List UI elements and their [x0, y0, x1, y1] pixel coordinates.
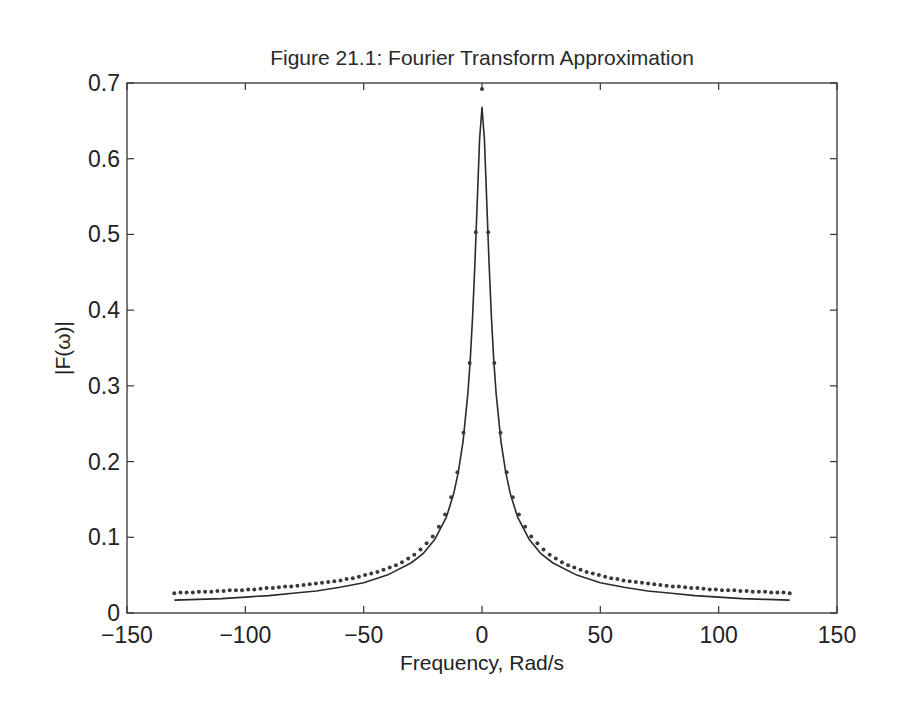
data-point: [406, 557, 410, 561]
data-point: [351, 576, 355, 580]
data-point: [222, 589, 226, 593]
data-point: [714, 588, 718, 592]
data-point: [265, 586, 269, 590]
data-point: [542, 547, 546, 551]
data-point: [474, 230, 478, 234]
plot-area: −150−100−50050100150 00.10.20.30.40.50.6…: [0, 0, 900, 709]
data-point: [769, 591, 773, 595]
data-point: [375, 570, 379, 574]
data-point: [554, 557, 558, 561]
y-axis-ticks: 00.10.20.30.40.50.60.7: [88, 70, 837, 626]
data-point: [646, 582, 650, 586]
data-point: [302, 583, 306, 587]
data-point: [757, 590, 761, 594]
data-point: [215, 589, 219, 593]
data-point: [499, 431, 503, 435]
y-tick-label: 0.1: [88, 524, 120, 550]
data-point: [345, 577, 349, 581]
solid-curve: [174, 107, 789, 600]
data-point: [492, 361, 496, 365]
data-point: [382, 568, 386, 572]
data-point: [455, 470, 459, 474]
y-tick-label: 0: [107, 600, 120, 626]
data-point: [203, 590, 207, 594]
data-point: [615, 577, 619, 581]
y-tick-label: 0.7: [88, 70, 120, 96]
data-point: [277, 585, 281, 589]
data-point: [179, 591, 183, 595]
data-point: [252, 588, 256, 592]
data-point: [640, 581, 644, 585]
data-point: [751, 590, 755, 594]
data-point: [677, 585, 681, 589]
data-point: [425, 541, 429, 545]
data-point: [591, 572, 595, 576]
data-point: [209, 590, 213, 594]
data-point: [665, 584, 669, 588]
data-point: [308, 582, 312, 586]
dot-series: [172, 87, 791, 595]
data-point: [468, 361, 472, 365]
x-tick-label: −100: [219, 622, 271, 648]
data-point: [622, 578, 626, 582]
data-point: [579, 568, 583, 572]
data-point: [400, 560, 404, 564]
data-point: [480, 87, 484, 91]
data-point: [708, 588, 712, 592]
data-point: [732, 588, 736, 592]
plot-frame: [127, 83, 837, 613]
data-point: [332, 579, 336, 583]
data-point: [437, 525, 441, 529]
data-point: [449, 495, 453, 499]
data-point: [548, 553, 552, 557]
data-point: [572, 566, 576, 570]
data-point: [357, 575, 361, 579]
data-point: [197, 590, 201, 594]
data-point: [289, 585, 293, 589]
data-point: [505, 470, 509, 474]
x-tick-label: 0: [476, 622, 489, 648]
data-point: [652, 582, 656, 586]
data-point: [259, 587, 263, 591]
data-point: [597, 573, 601, 577]
data-point: [295, 584, 299, 588]
x-tick-label: 150: [818, 622, 856, 648]
data-point: [443, 513, 447, 517]
x-tick-label: −50: [344, 622, 383, 648]
data-point: [695, 586, 699, 590]
y-tick-label: 0.4: [88, 297, 120, 323]
data-point: [689, 586, 693, 590]
x-tick-label: 50: [588, 622, 614, 648]
data-point: [511, 495, 515, 499]
data-point: [462, 431, 466, 435]
data-point: [517, 513, 521, 517]
data-point: [234, 588, 238, 592]
x-axis-label: Frequency, Rad/s: [400, 651, 564, 674]
data-point: [720, 588, 724, 592]
data-point: [240, 588, 244, 592]
data-point: [634, 580, 638, 584]
y-tick-label: 0.6: [88, 146, 120, 172]
data-point: [228, 588, 232, 592]
data-point: [628, 579, 632, 583]
data-point: [320, 581, 324, 585]
data-point: [326, 580, 330, 584]
data-point: [745, 589, 749, 593]
data-point: [535, 541, 539, 545]
data-point: [363, 573, 367, 577]
data-point: [782, 591, 786, 595]
data-point: [412, 553, 416, 557]
y-tick-label: 0.5: [88, 221, 120, 247]
data-point: [566, 563, 570, 567]
data-point: [775, 591, 779, 595]
data-point: [314, 582, 318, 586]
y-tick-label: 0.3: [88, 373, 120, 399]
axes-frame: [127, 83, 837, 613]
data-point: [603, 575, 607, 579]
x-tick-label: 100: [699, 622, 737, 648]
data-point: [486, 230, 490, 234]
data-point: [560, 560, 564, 564]
data-point: [523, 525, 527, 529]
data-point: [283, 585, 287, 589]
data-point: [763, 590, 767, 594]
